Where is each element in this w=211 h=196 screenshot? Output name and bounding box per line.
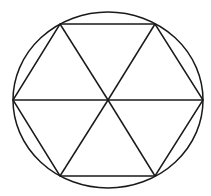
spoke-top-right — [108, 24, 155, 100]
spoke-bottom-right — [108, 100, 155, 176]
hexagon-in-circle-diagram — [0, 0, 211, 196]
triangle-dividers — [13, 24, 203, 176]
spoke-bottom-left — [60, 100, 108, 176]
spoke-top-left — [60, 24, 108, 100]
